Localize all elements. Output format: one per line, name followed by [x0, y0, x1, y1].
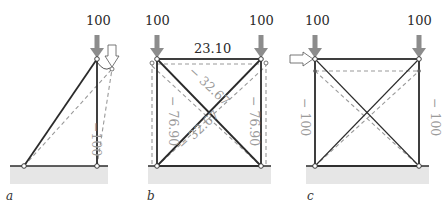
truss-diagram: 100 −100 a 100 100 23.10 — [0, 0, 443, 209]
caption-b: b — [147, 189, 155, 203]
force-top: 23.10 — [194, 41, 231, 56]
hollow-arrow-icon — [290, 52, 313, 66]
panel-b: 100 100 23.10 − 76.90 − 76.90 − 32.67 − … — [145, 13, 274, 203]
load-label: 100 — [86, 13, 111, 28]
ground-c — [306, 166, 429, 184]
caption-c: c — [307, 189, 314, 203]
force-diag-upper: − 32.67 — [186, 63, 233, 108]
load-arrow-icon — [150, 35, 164, 58]
force-right: − 100 — [428, 98, 443, 136]
ground-b — [148, 166, 271, 184]
load-label-right: 100 — [407, 13, 432, 28]
load-arrow-icon — [308, 35, 322, 58]
force-right: − 76.90 — [247, 96, 262, 146]
force-left: − 100 — [298, 98, 313, 136]
caption-a: a — [6, 189, 13, 203]
panel-a: 100 −100 a — [6, 13, 119, 203]
load-label-left: 100 — [305, 13, 330, 28]
ground-a — [10, 166, 108, 184]
member-diagonal — [24, 59, 97, 166]
panel-c: 100 100 − 100 − 100 c — [290, 13, 443, 203]
hollow-arrow-icon — [105, 45, 119, 67]
load-arrow-icon — [90, 35, 104, 58]
force-vertical: −100 — [89, 122, 104, 156]
load-arrow-icon — [412, 35, 426, 58]
load-arrow-icon — [254, 35, 268, 58]
load-label-right: 100 — [249, 13, 274, 28]
load-label-left: 100 — [145, 13, 170, 28]
